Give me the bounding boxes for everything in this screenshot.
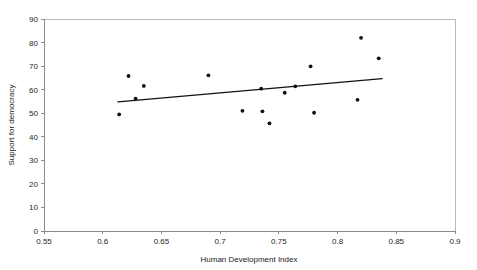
y-tick-label: 20 (29, 180, 38, 189)
y-tick-label: 60 (29, 86, 38, 95)
x-tick-label: 0.85 (388, 237, 404, 246)
data-point (268, 121, 272, 125)
x-tick-label: 0.7 (215, 237, 227, 246)
y-tick-label: 30 (29, 156, 38, 165)
y-tick-label: 50 (29, 109, 38, 118)
chart-figure: 0102030405060708090 0.550.60.650.70.750.… (0, 0, 477, 270)
y-axis-ticks: 0102030405060708090 (29, 15, 44, 236)
data-point (134, 97, 138, 101)
data-point (359, 36, 363, 40)
x-axis-title: Human Development Index (201, 255, 298, 264)
regression-trend-line (118, 79, 382, 102)
data-point (309, 64, 313, 68)
y-tick-label: 0 (34, 227, 39, 236)
y-tick-label: 10 (29, 203, 38, 212)
data-points-group (117, 36, 380, 125)
y-tick-label: 70 (29, 62, 38, 71)
data-point (312, 111, 316, 115)
data-point (283, 91, 287, 95)
y-tick-label: 40 (29, 133, 38, 142)
data-point (377, 56, 381, 60)
axes (44, 19, 455, 231)
scatter-plot: 0102030405060708090 0.550.60.650.70.750.… (0, 0, 477, 270)
x-tick-label: 0.8 (332, 237, 344, 246)
plot-frame (44, 19, 455, 231)
data-point (356, 98, 360, 102)
x-tick-label: 0.75 (271, 237, 287, 246)
x-axis-ticks: 0.550.60.650.70.750.80.850.9 (36, 231, 461, 246)
data-point (117, 113, 121, 117)
y-axis-title: Support for democracy (7, 85, 16, 166)
x-tick-label: 0.55 (36, 237, 52, 246)
data-point (293, 84, 297, 88)
data-point (207, 73, 211, 77)
x-tick-label: 0.9 (449, 237, 461, 246)
data-point (127, 74, 131, 78)
data-point (241, 109, 245, 113)
x-tick-label: 0.6 (97, 237, 109, 246)
data-point (259, 87, 263, 91)
y-tick-label: 80 (29, 39, 38, 48)
x-tick-label: 0.65 (154, 237, 170, 246)
data-point (142, 84, 146, 88)
trend-line-group (118, 79, 382, 102)
data-point (261, 109, 265, 113)
y-tick-label: 90 (29, 15, 38, 24)
